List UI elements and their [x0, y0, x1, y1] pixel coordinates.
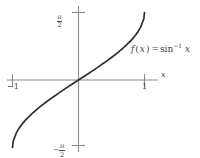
sin-operator: sin: [160, 44, 173, 54]
pi-numerator: π: [57, 14, 62, 21]
y-tick-label-pi-over-two: π 2: [57, 6, 62, 29]
arcsine-function-figure: π 2 − π 2 −1 1 x f(x)=sin−1 x: [0, 0, 200, 157]
plot-canvas: [0, 0, 200, 157]
y-tick-label-negative-pi-over-two: − π 2: [53, 139, 65, 157]
x-tick-label-negative-one: −1: [7, 83, 19, 91]
x-axis-label: x: [161, 71, 166, 79]
two-denominator: 2: [59, 152, 64, 158]
two-denominator: 2: [57, 22, 62, 29]
function-annotation: f(x)=sin−1 x: [131, 43, 190, 54]
function-argument: x: [185, 44, 190, 54]
x-tick-label-one: 1: [142, 83, 147, 91]
inverse-exponent: −1: [173, 42, 182, 49]
pi-numerator: π: [59, 143, 64, 150]
minus-sign: −: [53, 147, 59, 154]
equals-sign: =: [150, 44, 160, 54]
